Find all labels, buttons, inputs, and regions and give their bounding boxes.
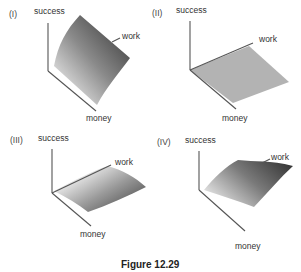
panel-label: (III) <box>10 135 23 145</box>
surface <box>54 15 130 105</box>
figure-canvas: (I) success work money (II) success work… <box>0 0 301 272</box>
panel-2: (II) success work money <box>152 5 289 123</box>
panel-4: (IV) success work money <box>157 135 293 251</box>
panel-label: (I) <box>9 9 17 19</box>
panel-3: (III) success work money <box>10 133 146 239</box>
axis-label-money: money <box>222 113 248 123</box>
panel-label: (IV) <box>157 137 171 147</box>
surface <box>190 46 289 103</box>
axis-label-work: work <box>121 31 141 41</box>
axis-label-money: money <box>86 113 112 123</box>
work-leader-line <box>112 38 120 42</box>
panel-1: (I) success work money <box>9 6 141 123</box>
axis-label-work: work <box>258 34 278 44</box>
axis-label-work: work <box>114 157 134 167</box>
axis-label-success: success <box>38 133 69 143</box>
axis-label-success: success <box>176 5 207 15</box>
panel-label: (II) <box>152 8 163 18</box>
axis-label-work: work <box>270 152 290 162</box>
axis-label-money: money <box>235 241 261 251</box>
axis-label-success: success <box>34 6 65 16</box>
axis-label-money: money <box>80 229 106 239</box>
axis-label-success: success <box>185 135 216 145</box>
surface <box>204 160 293 207</box>
figure-caption: Figure 12.29 <box>121 259 180 270</box>
surface <box>54 166 146 212</box>
